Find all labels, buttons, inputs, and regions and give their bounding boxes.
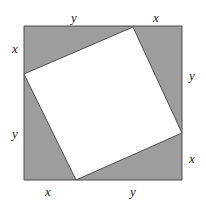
label-top-x: x: [153, 11, 159, 24]
label-top-y: y: [71, 11, 77, 24]
geometry-diagram: yxxyyxxy: [0, 0, 206, 207]
diagram-canvas: [0, 0, 206, 207]
label-left-x: x: [12, 42, 18, 55]
label-bottom-x: x: [45, 185, 51, 198]
label-bottom-y: y: [130, 185, 136, 198]
label-right-y: y: [189, 69, 195, 82]
label-right-x: x: [189, 152, 195, 165]
label-left-y: y: [12, 127, 18, 140]
